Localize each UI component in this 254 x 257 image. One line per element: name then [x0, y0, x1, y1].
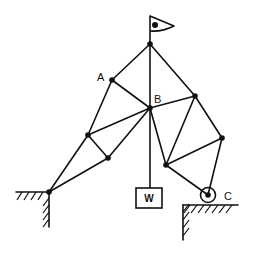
weight-label: W	[144, 193, 154, 204]
truss-diagram: W	[0, 0, 254, 257]
label-a: A	[97, 71, 105, 83]
roller-support-c	[201, 188, 216, 203]
label-c: C	[224, 190, 232, 202]
left-ground-support	[16, 192, 49, 227]
label-b: B	[154, 93, 161, 105]
weight-load: W	[136, 108, 162, 208]
flag-icon	[150, 16, 174, 44]
truss-nodes	[46, 41, 225, 195]
truss-members	[49, 44, 222, 195]
right-ground-support	[183, 204, 238, 240]
